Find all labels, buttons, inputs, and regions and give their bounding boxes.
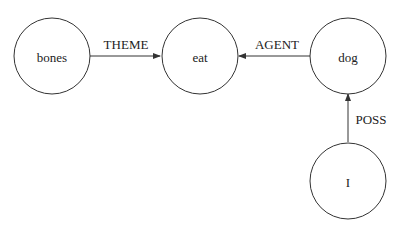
node-label-i: I xyxy=(346,175,350,190)
edge-label-theme: THEME xyxy=(104,37,149,52)
node-eat: eat xyxy=(162,18,238,94)
node-dog: dog xyxy=(310,18,386,94)
node-i: I xyxy=(310,143,386,219)
node-label-dog: dog xyxy=(338,50,358,65)
edge-agent: AGENT xyxy=(239,37,310,56)
node-label-eat: eat xyxy=(192,50,208,65)
edge-poss: POSS xyxy=(348,94,387,142)
edge-label-poss: POSS xyxy=(355,112,386,127)
node-label-bones: bones xyxy=(37,50,67,65)
node-bones: bones xyxy=(14,18,90,94)
edge-theme: THEME xyxy=(90,37,160,56)
semantic-graph: THEME AGENT POSS bones eat dog I xyxy=(0,0,401,227)
edge-label-agent: AGENT xyxy=(255,37,299,52)
